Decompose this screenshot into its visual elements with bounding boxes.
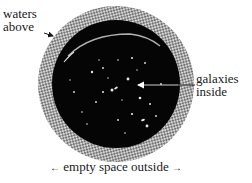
waters-above-label: waters above xyxy=(3,8,37,33)
empty-space-outside-label: ← empty space outside → xyxy=(50,161,182,174)
waters-above-line2: above xyxy=(3,21,37,33)
waters-above-arrow xyxy=(44,33,53,36)
galaxies-inside-line2: inside xyxy=(196,86,239,98)
universe-interior xyxy=(52,20,180,148)
empty-space-outside-text: empty space outside xyxy=(63,159,168,174)
right-arrow-icon: → xyxy=(172,162,182,173)
left-arrow-icon: ← xyxy=(50,162,60,173)
galaxies-inside-label: galaxies inside xyxy=(196,73,239,98)
